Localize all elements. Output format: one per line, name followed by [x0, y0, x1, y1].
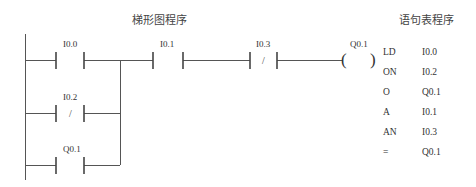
stl-row: = Q0.1: [383, 147, 473, 159]
stl-row: O Q0.1: [383, 87, 473, 99]
nc-slash-icon: /: [262, 56, 265, 66]
ladder-title: 梯形图程序: [132, 15, 187, 27]
stl-addr: I0.2: [422, 67, 437, 77]
stl-addr: I0.3: [422, 127, 437, 137]
stl-addr: Q0.1: [422, 147, 441, 157]
stl-op: O: [383, 87, 390, 97]
coil-open-icon: (: [341, 51, 347, 69]
contact-label: I0.0: [63, 39, 77, 49]
contact-label: I0.1: [160, 39, 174, 49]
nc-slash-icon: /: [69, 109, 72, 119]
stl-op: AN: [383, 127, 397, 137]
stl-row: A I0.1: [383, 107, 473, 119]
stl-addr: I0.0: [422, 47, 437, 57]
stl-op: LD: [383, 47, 396, 57]
stl-row: ON I0.2: [383, 67, 473, 79]
coil-close-icon: ): [370, 51, 376, 69]
contact-label: I0.2: [63, 92, 77, 102]
contact-label: I0.3: [256, 39, 270, 49]
stl-op: =: [383, 147, 388, 157]
contact-label: Q0.1: [63, 144, 81, 154]
stl-row: LD I0.0: [383, 47, 473, 59]
stl-op: A: [383, 107, 390, 117]
stl-addr: Q0.1: [422, 87, 441, 97]
stl-op: ON: [383, 67, 397, 77]
stl-row: AN I0.3: [383, 127, 473, 139]
stl-title: 语句表程序: [399, 15, 454, 27]
coil-label: Q0.1: [350, 39, 368, 49]
stl-addr: I0.1: [422, 107, 437, 117]
